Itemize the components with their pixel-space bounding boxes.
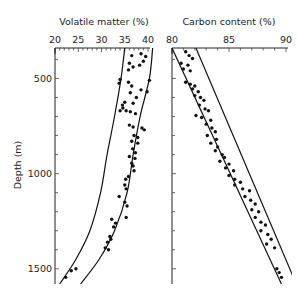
carbon-content-panel: 808590	[166, 34, 296, 284]
data-point	[207, 109, 210, 112]
data-point	[134, 112, 137, 115]
data-point	[266, 233, 269, 236]
data-point	[254, 216, 257, 219]
data-point	[131, 65, 134, 68]
data-point	[127, 81, 130, 84]
data-point	[232, 169, 235, 172]
data-point	[233, 183, 236, 186]
envelope-left-bound	[172, 48, 281, 284]
x-tick-label: 80	[166, 34, 178, 45]
data-point	[125, 204, 128, 207]
data-point	[189, 69, 192, 72]
data-point	[197, 90, 200, 93]
data-point	[74, 267, 77, 270]
data-point	[145, 90, 148, 93]
data-point	[142, 60, 145, 63]
data-point	[216, 145, 219, 148]
data-point	[257, 210, 260, 213]
envelope-right-bound	[81, 48, 153, 284]
data-point	[214, 149, 217, 152]
data-point	[118, 109, 121, 112]
data-point	[182, 67, 185, 70]
data-point	[215, 138, 218, 141]
data-point	[227, 162, 230, 165]
data-point	[136, 141, 139, 144]
data-point	[179, 62, 182, 65]
data-point	[104, 246, 107, 249]
data-point	[110, 218, 113, 221]
data-point	[191, 57, 194, 60]
data-point	[129, 91, 132, 94]
data-point	[186, 63, 189, 66]
data-point	[131, 164, 134, 167]
data-point	[200, 116, 203, 119]
data-point	[199, 96, 202, 99]
data-point	[243, 195, 246, 198]
data-point	[220, 153, 223, 156]
data-point	[187, 54, 190, 57]
data-point	[193, 94, 196, 97]
y-tick-label: 500	[34, 73, 52, 84]
data-point	[193, 84, 196, 87]
data-point	[107, 248, 110, 251]
envelope-left-bound	[60, 48, 125, 284]
data-point	[248, 189, 251, 192]
data-point	[202, 99, 205, 102]
data-point	[206, 134, 209, 137]
data-point	[265, 242, 268, 245]
plot-area	[172, 48, 296, 284]
x-tick-label: 25	[72, 34, 84, 45]
data-point	[184, 81, 187, 84]
data-point	[209, 119, 212, 122]
data-point	[275, 267, 278, 270]
data-point	[112, 225, 115, 228]
envelope-right-bound	[196, 48, 296, 284]
data-point	[224, 166, 227, 169]
data-point	[264, 223, 267, 226]
data-point	[130, 140, 133, 143]
data-point	[239, 180, 242, 183]
data-point	[124, 216, 127, 219]
data-point	[123, 101, 126, 104]
data-point	[277, 271, 280, 274]
data-point	[209, 141, 212, 144]
data-point	[132, 134, 135, 137]
data-point	[130, 84, 133, 87]
data-point	[130, 54, 133, 57]
data-point	[148, 79, 151, 82]
data-point	[123, 183, 126, 186]
data-point	[123, 200, 126, 203]
data-point	[118, 78, 121, 81]
x-tick-label: 35	[119, 34, 131, 45]
data-point	[184, 50, 187, 53]
data-point	[131, 125, 134, 128]
data-point	[139, 88, 142, 91]
data-point	[127, 68, 130, 71]
data-point	[227, 174, 230, 177]
data-point	[106, 240, 109, 243]
data-point	[128, 62, 131, 65]
data-point	[117, 195, 120, 198]
data-point	[124, 109, 127, 112]
data-point	[109, 238, 112, 241]
y-axis-title: Depth (m)	[12, 141, 23, 190]
data-point	[273, 246, 276, 249]
data-point	[133, 157, 136, 160]
data-point	[259, 220, 262, 223]
x-tick-label: 30	[95, 34, 107, 45]
data-point	[194, 114, 197, 117]
plot-area	[60, 48, 153, 284]
left-panel-title: Volatile matter (%)	[59, 16, 149, 27]
data-point	[223, 156, 226, 159]
data-point	[139, 52, 142, 55]
x-tick-label: 90	[280, 34, 292, 45]
data-point	[134, 151, 137, 154]
data-point	[128, 123, 131, 126]
data-point	[259, 229, 262, 232]
data-point	[218, 160, 221, 163]
y-tick-label: 1000	[28, 168, 52, 179]
data-point	[70, 269, 73, 272]
data-point	[249, 199, 252, 202]
data-point	[198, 103, 201, 106]
data-point	[269, 238, 272, 241]
